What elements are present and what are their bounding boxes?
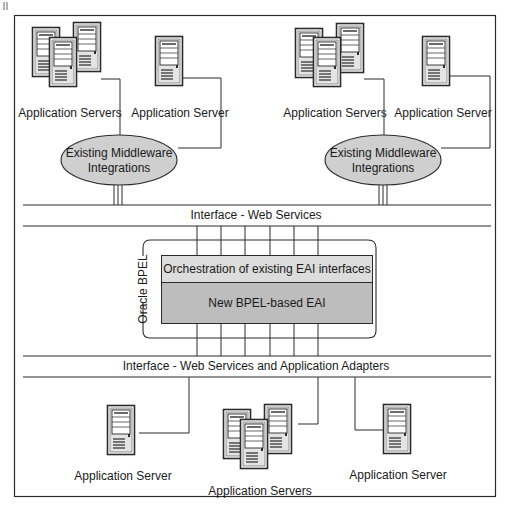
server-tower-icon xyxy=(384,405,411,454)
bottom-right-server xyxy=(384,405,411,454)
interface-top-label: Interface - Web Services xyxy=(190,208,321,222)
bottom-connectors xyxy=(197,323,318,356)
bottom-center-server-cluster xyxy=(224,405,292,469)
server-tower-icon xyxy=(156,37,183,86)
top-right-single-label: Application Server xyxy=(394,106,491,120)
oracle-bpel-label: Oracle BPEL xyxy=(136,254,150,324)
middleware-right-line1: Existing Middleware xyxy=(330,146,437,160)
top-left-server-cluster xyxy=(33,23,101,87)
top-right-server-cluster xyxy=(296,24,364,87)
interface-bottom-label: Interface - Web Services and Application… xyxy=(123,359,390,373)
middleware-right-line2: Integrations xyxy=(352,161,415,175)
bottom-left-server xyxy=(108,406,135,455)
top-right-cluster-label: Application Servers xyxy=(283,106,386,120)
top-left-single-server xyxy=(156,37,183,86)
top-right-single-server xyxy=(423,37,450,86)
architecture-diagram: Application Servers Application Server E… xyxy=(0,0,510,512)
server-tower-icon xyxy=(108,406,135,455)
middleware-left-line2: Integrations xyxy=(88,161,151,175)
server-tower-icon xyxy=(423,37,450,86)
middleware-left-line1: Existing Middleware xyxy=(66,146,173,160)
new-bpel-eai-label: New BPEL-based EAI xyxy=(208,296,325,310)
bottom-left-label: Application Server xyxy=(74,469,171,483)
bottom-right-label: Application Server xyxy=(349,468,446,482)
middleware-ellipse-left xyxy=(61,135,177,185)
top-left-single-label: Application Server xyxy=(131,106,228,120)
top-left-cluster-label: Application Servers xyxy=(18,106,121,120)
bottom-center-label: Application Servers xyxy=(208,484,311,498)
orchestration-label: Orchestration of existing EAI interfaces xyxy=(163,262,370,276)
middleware-ellipse-right xyxy=(325,135,441,185)
